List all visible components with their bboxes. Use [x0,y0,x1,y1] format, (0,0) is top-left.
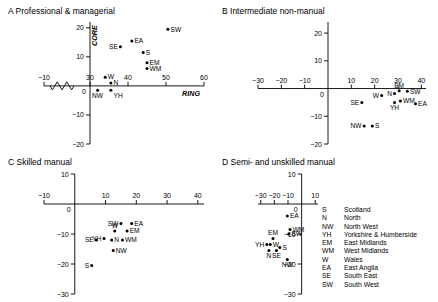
data-point-label: YH [255,241,264,248]
data-point [360,101,363,104]
svg-text:0: 0 [67,206,71,213]
svg-text:60: 60 [200,74,208,81]
svg-text:−20: −20 [268,192,280,199]
data-point [371,124,374,127]
legend-name: North [344,214,417,222]
data-point-label: W [112,222,119,229]
legend-name: North West [344,223,417,231]
svg-text:−30: −30 [284,291,296,298]
data-point [363,124,366,127]
svg-text:10: 10 [76,53,84,60]
data-point [272,237,275,240]
data-point-label: SW [171,26,182,33]
svg-text:−30: −30 [57,291,69,298]
legend-abbr: W [322,256,344,264]
data-point [146,61,149,64]
legend-item: WWales [322,256,417,264]
svg-text:−20: −20 [72,141,84,148]
svg-text:10: 10 [61,171,69,178]
data-point [398,89,401,92]
svg-text:40: 40 [417,77,425,84]
legend-item: SESouth East [322,272,417,280]
data-point-label: SW [410,88,421,95]
data-point [142,51,145,54]
data-point [119,222,122,225]
data-point-label: EA [134,220,143,227]
legend-name: West Midlands [344,247,417,255]
data-point [126,230,129,233]
data-point-label: SE [272,252,281,259]
data-point-label: EA [134,37,143,44]
data-point [109,89,112,92]
data-point-label: WM [150,65,162,72]
legend-abbr: WM [322,247,344,255]
data-point-label: NW [92,92,104,99]
svg-text:−10: −10 [38,74,50,81]
svg-text:40: 40 [124,74,132,81]
svg-text:−20: −20 [310,141,322,148]
data-point [119,45,122,48]
svg-text:−30: −30 [255,192,267,199]
legend-name: South East [344,272,417,280]
legend-name: Scotland [344,206,417,214]
data-point [269,243,272,246]
svg-text:−10: −10 [310,113,322,120]
legend-item: EAEast Anglia [322,264,417,272]
legend-name: East Anglia [344,264,417,272]
data-point-label: EM [130,227,140,234]
legend-table: SScotlandNNorthNWNorth WestYHYorkshire &… [322,206,417,289]
data-point-label: EM [394,82,404,89]
data-point-label: S [282,244,287,251]
legend-item: SScotland [322,206,417,214]
svg-text:20: 20 [132,192,140,199]
data-point [130,222,133,225]
data-point-label: NW [351,122,363,129]
legend-item: WMWest Midlands [322,247,417,255]
legend-item: YHYorkshire & Humberside [322,231,417,239]
data-point [414,102,417,105]
svg-text:20: 20 [371,77,379,84]
svg-text:−10: −10 [282,192,294,199]
region-legend: SScotlandNNorthNWNorth WestYHYorkshire &… [322,206,417,289]
data-point [265,243,268,246]
x-axis-label: RING [182,89,200,98]
data-point [399,100,402,103]
data-point-label: SE [85,236,94,243]
data-point-label: SW [291,230,302,237]
data-point-label: YH [390,104,399,111]
svg-text:10: 10 [347,77,355,84]
data-point-label: N [387,90,392,97]
legend-abbr: NW [322,223,344,231]
data-point-label: NW [282,261,294,268]
data-point-label: WM [403,97,415,104]
svg-text:10: 10 [314,57,322,64]
svg-text:−10: −10 [57,231,69,238]
svg-text:−10: −10 [72,111,84,118]
y-axis-label: CORE [90,25,99,46]
legend-name: Wales [344,256,417,264]
data-point [110,239,113,242]
legend-item: NWNorth West [322,223,417,231]
svg-text:10: 10 [102,192,110,199]
data-point [130,39,133,42]
data-point [112,249,115,252]
data-point-label: WM [125,236,137,243]
svg-text:−20: −20 [57,261,69,268]
svg-text:40: 40 [194,192,202,199]
data-point [90,264,93,267]
data-point-label: S [146,49,151,56]
legend-abbr: N [322,214,344,222]
svg-text:30: 30 [163,192,171,199]
data-point-label: N [114,79,119,86]
svg-text:0: 0 [82,88,86,95]
data-point [113,230,116,233]
legend-name: South West [344,281,417,289]
panel-a-plot: −1030405060−20−1010200CORERINGSWEASESEMW… [18,0,230,170]
data-point-label: N [267,252,272,259]
data-point [109,82,112,85]
legend-abbr: YH [322,231,344,239]
data-point-label: EM [268,229,278,236]
svg-text:−10: −10 [38,192,50,199]
data-point-label: EA [290,212,299,219]
data-point [286,215,289,218]
